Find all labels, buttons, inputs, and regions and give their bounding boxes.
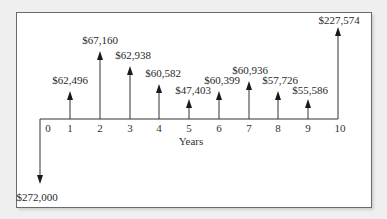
year-label-5: 5 xyxy=(186,122,192,134)
year-label-9: 9 xyxy=(305,122,311,134)
arrow-down-icon xyxy=(37,175,43,184)
amount-label-year-3: $62,938 xyxy=(115,49,151,61)
year-label-4: 4 xyxy=(156,122,162,134)
amount-label-year-4: $60,582 xyxy=(145,67,181,79)
year-label-7: 7 xyxy=(246,122,252,134)
amount-label-year-10: $227,574 xyxy=(318,14,360,26)
year-label-2: 2 xyxy=(97,122,103,134)
year-label-6: 6 xyxy=(216,122,222,134)
amount-label-year-9: $55,586 xyxy=(292,84,328,96)
amount-labels: $62,496 $67,160 $62,938 $60,582 $47,403 … xyxy=(16,14,360,203)
year-tick-labels: 0 1 2 3 4 5 6 7 8 9 10 Years xyxy=(45,122,346,147)
year-label-10: 10 xyxy=(335,122,347,134)
year-label-8: 8 xyxy=(275,122,281,134)
outflow-arrow-year-0 xyxy=(37,119,43,184)
year-label-0: 0 xyxy=(45,122,51,134)
year-label-1: 1 xyxy=(67,122,73,134)
axis-label-years: Years xyxy=(179,135,204,147)
cash-flow-diagram: $62,496 $67,160 $62,938 $60,582 $47,403 … xyxy=(0,0,387,219)
amount-label-year-0: $272,000 xyxy=(16,191,58,203)
amount-label-year-1: $62,496 xyxy=(52,74,88,86)
year-label-3: 3 xyxy=(127,122,133,134)
amount-label-year-2: $67,160 xyxy=(82,34,118,46)
